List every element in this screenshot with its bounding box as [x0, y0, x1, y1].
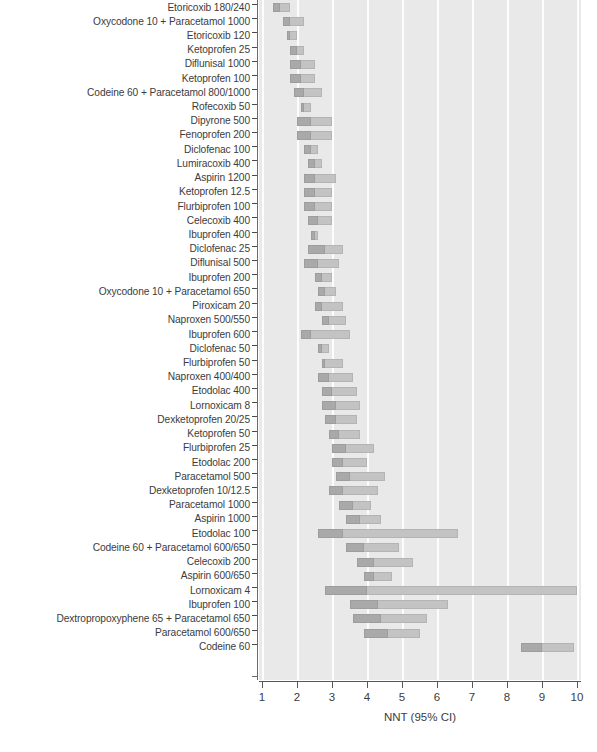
plot-area	[259, 0, 581, 680]
x-axis-tick-5	[402, 681, 403, 688]
category-label: Aspirin 1000	[195, 514, 250, 524]
category-label: Dexketoprofen 20/25	[157, 415, 250, 425]
gridline-2	[297, 0, 299, 680]
x-axis-tick-label: 8	[496, 691, 518, 703]
point-estimate-marker	[308, 216, 319, 225]
y-axis-line	[257, 0, 258, 680]
point-estimate-marker	[346, 515, 360, 524]
category-label: Ibuprofen 600	[188, 330, 250, 340]
point-estimate-marker	[322, 387, 333, 396]
point-estimate-marker	[273, 3, 280, 12]
point-estimate-marker	[308, 159, 315, 168]
point-estimate-marker	[311, 231, 315, 240]
category-label-column: Etoricoxib 180/240Oxycodone 10 + Paracet…	[0, 0, 258, 680]
category-label: Diflunisal 500	[190, 258, 250, 268]
point-estimate-marker	[318, 287, 325, 296]
gridline-7	[472, 0, 474, 680]
point-estimate-marker	[294, 88, 305, 97]
point-estimate-marker	[329, 430, 340, 439]
category-label: Celecoxib 200	[187, 557, 250, 567]
point-estimate-marker	[290, 46, 297, 55]
point-estimate-marker	[521, 643, 542, 652]
gridline-8	[507, 0, 509, 680]
point-estimate-marker	[301, 103, 305, 112]
point-estimate-marker	[322, 359, 326, 368]
x-axis-tick-4	[367, 681, 368, 688]
point-estimate-marker	[304, 174, 315, 183]
category-label: Etodolac 200	[192, 458, 250, 468]
gridline-9	[542, 0, 544, 680]
x-axis-tick-label: 9	[531, 691, 553, 703]
category-label: Etodolac 100	[192, 529, 250, 539]
point-estimate-marker	[322, 316, 329, 325]
x-axis-tick-3	[332, 681, 333, 688]
point-estimate-marker	[318, 344, 322, 353]
category-label: Lumiracoxib 400	[177, 159, 250, 169]
point-estimate-marker	[339, 501, 353, 510]
point-estimate-marker	[322, 401, 336, 410]
category-label: Aspirin 1200	[195, 173, 250, 183]
category-label: Codeine 60 + Paracetamol 800/1000	[87, 88, 250, 98]
gridline-1	[262, 0, 264, 680]
category-label: Paracetamol 1000	[169, 500, 250, 510]
x-axis-line	[259, 681, 581, 682]
category-label: Codeine 60 + Paracetamol 600/650	[93, 543, 250, 553]
x-axis-tick-label: 4	[356, 691, 378, 703]
point-estimate-marker	[350, 600, 378, 609]
point-estimate-marker	[315, 273, 322, 282]
category-label: Codeine 60	[199, 642, 250, 652]
point-estimate-marker	[301, 330, 312, 339]
point-estimate-marker	[304, 145, 311, 154]
category-label: Ketoprofen 100	[182, 74, 250, 84]
point-estimate-marker	[304, 259, 318, 268]
category-label: Etoricoxib 180/240	[167, 3, 250, 13]
point-estimate-marker	[325, 415, 336, 424]
point-estimate-marker	[297, 131, 311, 140]
category-label: Lornoxicam 8	[190, 401, 250, 411]
point-estimate-marker	[357, 558, 375, 567]
point-estimate-marker	[364, 572, 375, 581]
x-axis-tick-label: 2	[286, 691, 308, 703]
x-axis-title: NNT (95% CI)	[259, 711, 581, 723]
x-axis-tick-9	[542, 681, 543, 688]
x-axis-tick-label: 1	[251, 691, 273, 703]
point-estimate-marker	[353, 614, 381, 623]
point-estimate-marker	[304, 188, 315, 197]
category-label: Oxycodone 10 + Paracetamol 650	[99, 287, 250, 297]
category-label: Oxycodone 10 + Paracetamol 1000	[93, 17, 250, 27]
category-label: Dextropropoxyphene 65 + Paracetamol 650	[57, 614, 250, 624]
category-label: Naproxen 400/400	[168, 372, 250, 382]
category-label: Paracetamol 600/650	[155, 628, 250, 638]
point-estimate-marker	[332, 458, 343, 467]
category-label: Lornoxicam 4	[190, 586, 250, 596]
nnt-forest-chart: Etoricoxib 180/240Oxycodone 10 + Paracet…	[0, 0, 597, 752]
point-estimate-marker	[336, 472, 350, 481]
category-label: Ketoprofen 50	[187, 429, 250, 439]
category-label: Ketoprofen 25	[187, 45, 250, 55]
gridline-3	[332, 0, 334, 680]
category-label: Aspirin 600/650	[181, 571, 250, 581]
category-label: Dipyrone 500	[191, 116, 250, 126]
category-label: Etoricoxib 120	[187, 31, 250, 41]
category-label: Ibuprofen 100	[188, 600, 250, 610]
category-label: Diclofenac 100	[184, 145, 250, 155]
point-estimate-marker	[364, 629, 389, 638]
category-label: Ketoprofen 12.5	[179, 187, 250, 197]
y-axis-corner-tick	[252, 676, 258, 677]
point-estimate-marker	[304, 202, 315, 211]
gridline-5	[402, 0, 404, 680]
point-estimate-marker	[287, 31, 291, 40]
point-estimate-marker	[315, 302, 322, 311]
x-axis-tick-label: 5	[391, 691, 413, 703]
category-label: Celecoxib 400	[187, 216, 250, 226]
category-label: Ibuprofen 400	[188, 230, 250, 240]
category-label: Ibuprofen 200	[188, 273, 250, 283]
gridline-6	[437, 0, 439, 680]
point-estimate-marker	[290, 60, 301, 69]
category-label: Paracetamol 500	[174, 472, 250, 482]
category-label: Naproxen 500/550	[168, 315, 250, 325]
x-axis-tick-8	[507, 681, 508, 688]
point-estimate-marker	[325, 586, 367, 595]
category-label: Diclofenac 25	[190, 244, 250, 254]
category-label: Piroxicam 20	[192, 301, 250, 311]
